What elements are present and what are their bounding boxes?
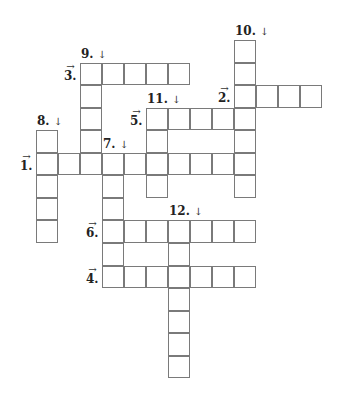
clue-number-across-4: →4. [86, 273, 99, 285]
crossword-cell[interactable] [168, 108, 190, 131]
crossword-cell[interactable] [234, 108, 256, 131]
crossword-cell[interactable] [212, 266, 234, 289]
crossword-cell[interactable] [234, 40, 256, 63]
crossword-cell[interactable] [124, 63, 146, 86]
clue-number: 11. [147, 92, 168, 106]
clue-number-down-9: 9. ↓ [81, 48, 106, 61]
crossword-cell[interactable] [168, 243, 190, 266]
arrow-right-icon: → [66, 61, 74, 73]
crossword-cell[interactable] [146, 130, 168, 153]
crossword-cell[interactable] [190, 153, 212, 176]
clue-number-down-10: 10. ↓ [235, 25, 268, 38]
arrow-right-icon: → [22, 151, 30, 163]
arrow-down-icon: ↓ [172, 94, 180, 105]
clue-number-across-6: →6. [86, 227, 99, 239]
arrow-down-icon: ↓ [194, 206, 202, 217]
crossword-cell[interactable] [234, 153, 256, 176]
crossword-cell[interactable] [168, 266, 190, 289]
crossword-cell[interactable] [234, 63, 256, 86]
crossword-cell[interactable] [168, 63, 190, 86]
arrow-down-icon: ↓ [54, 116, 62, 127]
crossword-cell[interactable] [234, 175, 256, 198]
crossword-cell[interactable] [102, 63, 124, 86]
crossword-cell[interactable] [212, 108, 234, 131]
crossword-cell[interactable] [168, 311, 190, 334]
crossword-cell[interactable] [190, 108, 212, 131]
crossword-cell[interactable] [256, 85, 278, 108]
crossword-cell[interactable] [80, 63, 102, 86]
arrow-right-icon: → [132, 106, 140, 118]
arrow-down-icon: ↓ [120, 139, 128, 150]
crossword-cell[interactable] [102, 198, 124, 221]
crossword-cell[interactable] [124, 153, 146, 176]
clue-number-down-11: 11. ↓ [147, 93, 180, 106]
crossword-cell[interactable] [146, 220, 168, 243]
crossword-cell[interactable] [212, 220, 234, 243]
crossword-cell[interactable] [36, 153, 58, 176]
crossword-cell[interactable] [234, 130, 256, 153]
crossword-cell[interactable] [80, 130, 102, 153]
crossword-cell[interactable] [234, 266, 256, 289]
crossword-cell[interactable] [102, 220, 124, 243]
clue-number: 10. [235, 24, 256, 38]
clue-number: 7. [103, 137, 116, 151]
arrow-right-icon: → [88, 218, 96, 230]
crossword-cell[interactable] [278, 85, 300, 108]
clue-number: 12. [169, 204, 190, 218]
crossword-cell[interactable] [102, 266, 124, 289]
crossword-cell[interactable] [168, 220, 190, 243]
crossword-cell[interactable] [80, 153, 102, 176]
arrow-right-icon: → [220, 83, 228, 95]
crossword-cell[interactable] [146, 175, 168, 198]
clue-number-across-3: →3. [64, 70, 77, 82]
arrow-right-icon: → [88, 264, 96, 276]
crossword-cell[interactable] [146, 63, 168, 86]
crossword-cell[interactable] [168, 288, 190, 311]
crossword-cell[interactable] [80, 85, 102, 108]
crossword-cell[interactable] [58, 153, 80, 176]
clue-number-down-7: 7. ↓ [103, 138, 128, 151]
clue-number-across-5: →5. [130, 115, 143, 127]
crossword-cell[interactable] [168, 153, 190, 176]
crossword-cell[interactable] [36, 198, 58, 221]
crossword-grid: →1.→2.→3.→4.→5.→6.7. ↓8. ↓9. ↓10. ↓11. ↓… [0, 0, 338, 396]
crossword-cell[interactable] [36, 175, 58, 198]
crossword-cell[interactable] [36, 220, 58, 243]
clue-number-across-2: →2. [218, 92, 231, 104]
clue-number-across-1: →1. [20, 160, 33, 172]
crossword-cell[interactable] [146, 108, 168, 131]
crossword-cell[interactable] [102, 243, 124, 266]
crossword-cell[interactable] [146, 266, 168, 289]
crossword-cell[interactable] [124, 266, 146, 289]
clue-number-down-12: 12. ↓ [169, 205, 202, 218]
crossword-cell[interactable] [234, 220, 256, 243]
arrow-down-icon: ↓ [98, 49, 106, 60]
clue-number: 8. [37, 114, 50, 128]
crossword-cell[interactable] [102, 175, 124, 198]
crossword-cell[interactable] [146, 153, 168, 176]
arrow-down-icon: ↓ [260, 26, 268, 37]
crossword-cell[interactable] [80, 108, 102, 131]
crossword-cell[interactable] [190, 220, 212, 243]
crossword-cell[interactable] [168, 356, 190, 379]
crossword-cell[interactable] [124, 220, 146, 243]
crossword-cell[interactable] [190, 266, 212, 289]
clue-number-down-8: 8. ↓ [37, 115, 62, 128]
crossword-cell[interactable] [168, 333, 190, 356]
crossword-cell[interactable] [102, 153, 124, 176]
crossword-cell[interactable] [36, 130, 58, 153]
crossword-cell[interactable] [212, 153, 234, 176]
crossword-cell[interactable] [300, 85, 322, 108]
crossword-cell[interactable] [234, 85, 256, 108]
clue-number: 9. [81, 47, 94, 61]
